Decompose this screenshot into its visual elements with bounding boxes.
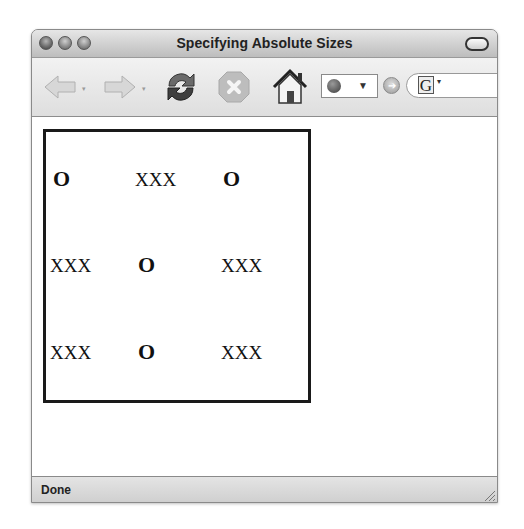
reload-icon <box>163 69 199 105</box>
status-text: Done <box>41 483 71 497</box>
back-history-dropdown[interactable]: ▾ <box>82 85 86 93</box>
url-field[interactable]: ▼ <box>321 74 378 98</box>
go-button[interactable]: ➔ <box>383 77 400 94</box>
search-field[interactable]: G ▾ <box>406 73 498 98</box>
grid-cell-r1c1: O <box>53 169 70 189</box>
toolbar: ▾ ▾ <box>32 58 497 117</box>
grid-cell-r1c3: O <box>223 169 240 189</box>
grid-cell-r3c1: XXX <box>50 343 91 363</box>
back-button[interactable] <box>42 74 78 100</box>
grid-cell-r2c2: O <box>138 255 155 275</box>
grid-cell-r2c1: XXX <box>50 256 91 276</box>
browser-window: Specifying Absolute Sizes ▾ ▾ <box>31 29 498 503</box>
forward-arrow-icon <box>103 74 137 100</box>
url-dropdown-icon[interactable]: ▼ <box>358 80 368 91</box>
globe-icon <box>327 79 341 93</box>
home-button[interactable] <box>272 68 308 106</box>
grid-cell-r3c2: O <box>138 342 155 362</box>
window-title: Specifying Absolute Sizes <box>32 35 497 51</box>
grid-cell-r1c2: XXX <box>135 170 176 190</box>
forward-history-dropdown[interactable]: ▾ <box>142 85 146 93</box>
grid-cell-r2c3: XXX <box>221 256 262 276</box>
google-search-engine-icon[interactable]: G <box>418 76 434 94</box>
stop-icon <box>217 70 251 104</box>
stop-button[interactable] <box>217 70 251 104</box>
title-bar[interactable]: Specifying Absolute Sizes <box>32 30 497 58</box>
forward-button[interactable] <box>102 74 138 100</box>
page-content: O XXX O XXX O XXX XXX O XXX <box>32 117 497 476</box>
back-arrow-icon <box>43 74 77 100</box>
toolbar-toggle-button[interactable] <box>465 37 489 51</box>
reload-button[interactable] <box>163 69 199 105</box>
home-icon <box>272 68 308 106</box>
bordered-grid-box: O XXX O XXX O XXX XXX O XXX <box>43 129 311 403</box>
grid-cell-r3c3: XXX <box>221 343 262 363</box>
resize-grip-icon[interactable] <box>482 488 496 502</box>
status-bar: Done <box>32 476 497 503</box>
search-engine-dropdown-icon[interactable]: ▾ <box>437 77 441 86</box>
